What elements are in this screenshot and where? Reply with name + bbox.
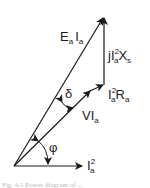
vi-label: VIa — [82, 108, 99, 125]
figure-caption: Fig. 4.1 Power diagram of ... — [2, 181, 83, 188]
ia2-label: I2a — [87, 157, 96, 175]
phi-angle-arc — [38, 141, 48, 164]
delta-angle-arc — [62, 102, 73, 108]
ea-ia-label: EaIa — [60, 29, 84, 46]
phasor-diagram: EaIa jI2aXs I2aRa VIa I2a δ φ Fig. 4.1 P… — [0, 0, 150, 188]
ra-label: I2aRa — [108, 86, 130, 104]
phi-label: φ — [49, 140, 57, 155]
xs-label: jI2aXs — [107, 47, 131, 65]
delta-label: δ — [65, 86, 72, 101]
ra-arrow — [90, 85, 103, 91]
